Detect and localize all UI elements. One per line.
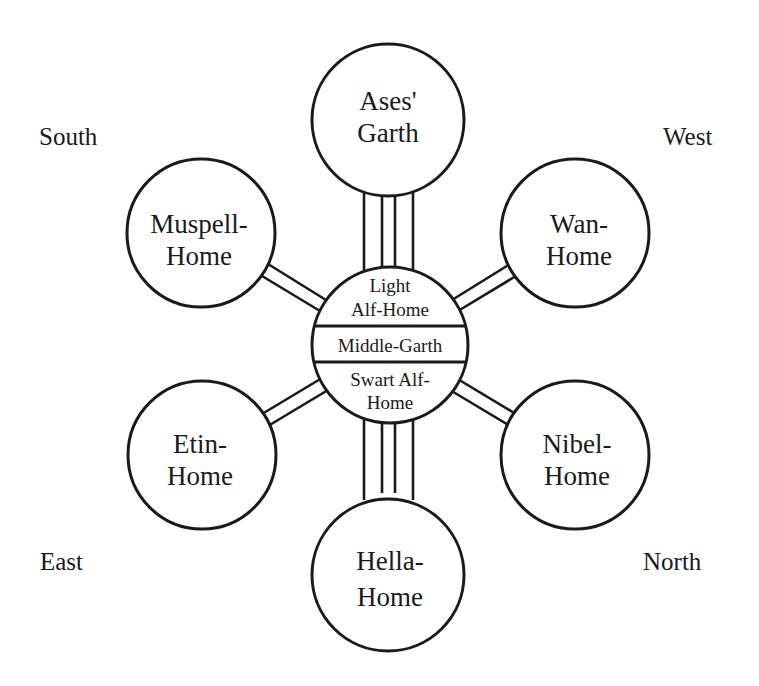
muspell-home-label-2: Home	[166, 241, 232, 271]
connector-muspell-home	[262, 264, 326, 311]
wan-home-label-1: Wan-	[550, 209, 608, 239]
middle-garth-label: Middle-Garth	[338, 335, 443, 356]
light-alf-home-label-2: Alf-Home	[351, 299, 429, 320]
world-ases-garth: Ases' Garth	[312, 44, 464, 196]
hella-home-label-2: Home	[357, 582, 423, 612]
connector-hella-home	[364, 412, 413, 500]
direction-south-label: South	[39, 123, 98, 150]
wan-home-label-2: Home	[546, 241, 612, 271]
swart-alf-home-label-1: Swart Alf-	[350, 369, 430, 390]
ases-garth-label-1: Ases'	[359, 86, 416, 116]
light-alf-home-label-1: Light	[369, 275, 411, 296]
direction-east-label: East	[40, 548, 83, 575]
nibel-home-label-1: Nibel-	[543, 429, 612, 459]
connector-wan-home	[452, 264, 516, 311]
world-etin-home: Etin- Home	[128, 381, 276, 529]
cosmology-diagram: Light Alf-Home Middle-Garth Swart Alf- H…	[0, 0, 759, 686]
nibel-home-label-2: Home	[544, 461, 610, 491]
connector-etin-home	[262, 378, 328, 426]
center-hub: Light Alf-Home Middle-Garth Swart Alf- H…	[312, 267, 468, 423]
world-hella-home: Hella- Home	[312, 499, 464, 651]
world-wan-home: Wan- Home	[501, 159, 649, 307]
world-nibel-home: Nibel- Home	[501, 381, 649, 529]
muspell-home-label-1: Muspell-	[150, 209, 248, 239]
ases-garth-label-2: Garth	[357, 118, 419, 148]
direction-west-label: West	[663, 123, 712, 150]
hella-home-label-1: Hella-	[356, 546, 423, 576]
etin-home-label-2: Home	[167, 461, 233, 491]
connector-nibel-home	[450, 378, 516, 426]
world-muspell-home: Muspell- Home	[127, 159, 275, 307]
swart-alf-home-label-2: Home	[367, 392, 413, 413]
direction-north-label: North	[643, 548, 702, 575]
etin-home-label-1: Etin-	[173, 429, 227, 459]
